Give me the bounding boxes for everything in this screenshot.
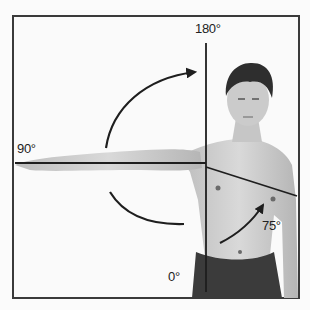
nipple-left	[216, 186, 221, 191]
nipple-right	[271, 197, 276, 202]
outstretched-arm	[15, 149, 202, 171]
person-figure	[15, 63, 298, 298]
rom-diagram	[0, 0, 310, 310]
label-0-degrees: 0°	[168, 270, 180, 283]
label-180-degrees: 180°	[195, 22, 221, 35]
label-90-degrees: 90°	[17, 142, 36, 155]
navel	[238, 250, 242, 254]
lower-arc	[110, 192, 184, 224]
abduction-arrow-icon	[106, 72, 195, 148]
label-75-degrees: 75°	[262, 219, 281, 232]
